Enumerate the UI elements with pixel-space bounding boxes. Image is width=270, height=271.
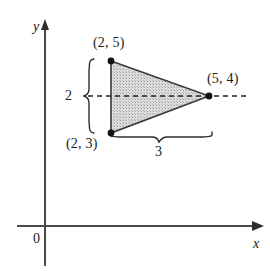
horizontal-brace [110, 132, 212, 142]
y-axis-label: y [33, 20, 39, 34]
x-axis-arrow-icon [252, 221, 264, 231]
vertex-dot-bottom-left [108, 130, 115, 137]
y-axis-arrow-icon [41, 19, 49, 30]
triangle-shape [111, 61, 209, 133]
vertex-dot-right [206, 93, 213, 100]
vertex-dot-top-left [108, 58, 115, 65]
coordinate-diagram [0, 0, 270, 271]
figure-canvas: y x 0 (2, 5) (5, 4) (2, 3) 2 3 [0, 0, 270, 271]
point-label-top-left: (2, 5) [93, 36, 125, 50]
origin-label: 0 [33, 232, 40, 246]
point-label-bottom-left: (2, 3) [66, 137, 98, 151]
measurement-label-vertical: 2 [65, 89, 72, 103]
measurement-label-horizontal: 3 [155, 145, 162, 159]
x-axis-label: x [253, 237, 259, 251]
point-label-right: (5, 4) [207, 72, 239, 86]
y-axis [41, 19, 49, 266]
x-axis [17, 221, 264, 231]
